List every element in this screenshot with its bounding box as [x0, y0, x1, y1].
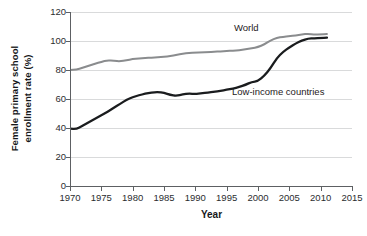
- y-tick-label-20: 20: [40, 152, 66, 162]
- x-tick-mark-2015: [352, 187, 353, 191]
- x-tick-mark-1995: [227, 187, 228, 191]
- x-tick-mark-2010: [321, 187, 322, 191]
- x-tick-mark-1980: [133, 187, 134, 191]
- y-axis-ticks: 020406080100120: [38, 0, 66, 196]
- y-tick-mark-40: [66, 128, 70, 129]
- y-tick-mark-80: [66, 70, 70, 71]
- y-axis-title-line-2: enrollment rate (%): [22, 45, 35, 151]
- y-tick-mark-120: [66, 12, 70, 13]
- y-tick-label-40: 40: [40, 123, 66, 133]
- x-tick-mark-2005: [289, 187, 290, 191]
- x-tick-mark-1985: [164, 187, 165, 191]
- series-label-world: World: [234, 22, 259, 33]
- y-tick-label-100: 100: [40, 36, 66, 46]
- y-tick-mark-0: [66, 186, 70, 187]
- x-tick-mark-2000: [258, 187, 259, 191]
- y-axis-line: [70, 12, 71, 187]
- x-axis-line: [70, 186, 353, 187]
- bottom-cutoff-artifact: [0, 231, 367, 236]
- x-tick-mark-1970: [70, 187, 71, 191]
- plot-svg: [70, 12, 352, 186]
- series-line-low-income-countries: [70, 38, 327, 129]
- x-tick-mark-1990: [195, 187, 196, 191]
- y-tick-label-80: 80: [40, 65, 66, 75]
- y-axis-title-line-1: Female primary school: [10, 45, 23, 151]
- series-label-low-income: Low-income countries: [232, 86, 324, 97]
- y-tick-mark-100: [66, 41, 70, 42]
- x-tick-label-2015: 2015: [332, 192, 367, 203]
- y-tick-label-0: 0: [40, 181, 66, 191]
- x-axis-title: Year: [70, 209, 353, 220]
- series-line-world: [70, 34, 327, 70]
- plot-area: [70, 12, 352, 186]
- y-tick-label-120: 120: [40, 7, 66, 17]
- x-tick-mark-1975: [101, 187, 102, 191]
- series-lines: [70, 34, 327, 129]
- y-tick-label-60: 60: [40, 94, 66, 104]
- y-tick-mark-20: [66, 157, 70, 158]
- y-tick-mark-60: [66, 99, 70, 100]
- chart-container: Female primary school enrollment rate (%…: [0, 0, 367, 236]
